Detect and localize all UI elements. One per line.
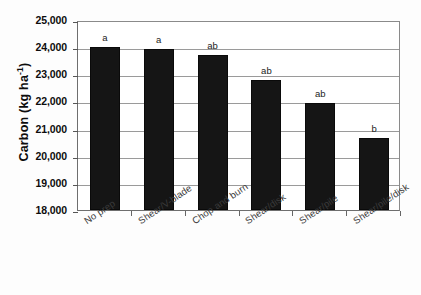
bar[interactable] (90, 47, 120, 210)
y-axis-tick (73, 131, 78, 132)
y-axis-tick (73, 158, 78, 159)
y-axis-tick-label: 18,000 (9, 204, 67, 216)
y-axis-tick (73, 185, 78, 186)
plot-area: aaabababb (77, 21, 400, 211)
y-axis-tick (73, 76, 78, 77)
y-axis-tick-label: 20,000 (9, 150, 67, 162)
x-axis-tick (346, 211, 347, 216)
y-axis-tick (73, 212, 78, 213)
gridline (78, 49, 399, 50)
significance-letter: ab (300, 88, 340, 99)
significance-letter: b (354, 123, 394, 134)
y-axis-tick (73, 22, 78, 23)
y-axis-tick (73, 103, 78, 104)
gridline (78, 76, 399, 77)
x-axis-tick (400, 211, 401, 216)
y-axis-tick-label: 23,000 (9, 68, 67, 80)
significance-letter: ab (246, 65, 286, 76)
y-axis-tick-label: 22,000 (9, 95, 67, 107)
gridline (78, 131, 399, 132)
bar-chart-figure: Carbon (kg ha-1) 25,00024,00023,00022,00… (0, 0, 421, 295)
y-axis-tick-label: 21,000 (9, 123, 67, 135)
bar[interactable] (198, 55, 228, 210)
bar[interactable] (251, 80, 281, 210)
y-axis-tick (73, 49, 78, 50)
x-axis-tick (292, 211, 293, 216)
y-axis-tick-label: 19,000 (9, 177, 67, 189)
significance-letter: a (85, 32, 125, 43)
y-axis-tick-label: 25,000 (9, 14, 67, 26)
y-axis-tick-label: 24,000 (9, 41, 67, 53)
y-axis-title-tail: ) (17, 63, 31, 67)
x-axis-tick (185, 211, 186, 216)
significance-letter: ab (193, 40, 233, 51)
gridline (78, 103, 399, 104)
significance-letter: a (139, 34, 179, 45)
bar[interactable] (144, 49, 174, 211)
x-axis-tick (131, 211, 132, 216)
x-axis-tick (239, 211, 240, 216)
y-axis-title-base: Carbon (kg ha (17, 75, 31, 162)
gridline (78, 158, 399, 159)
